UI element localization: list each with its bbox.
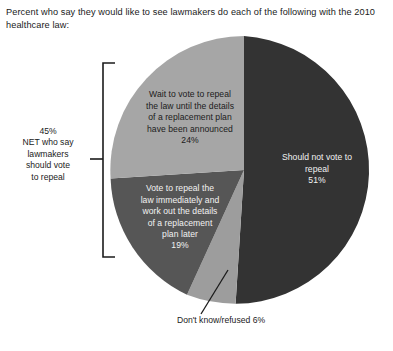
net-bracket (90, 62, 116, 258)
net-annotation-percent: 45% (39, 126, 56, 136)
pie-label-wait-text: Wait to vote to repeal the law until the… (146, 89, 234, 133)
pie-label-shouldnot-percent: 51% (258, 175, 376, 186)
pie-label-shouldnot-text: Should not vote to repeal (282, 152, 352, 173)
pie-label-immediate-text: Vote to repeal the law immediately and w… (141, 183, 220, 239)
pie-label-dontknow-percent: 6% (253, 315, 265, 325)
chart-page: Percent who say they would like to see l… (0, 0, 393, 351)
pie-label-wait-to-vote: Wait to vote to repeal the law until the… (122, 78, 258, 158)
net-annotation-text: NET who say lawmakers should vote to rep… (23, 137, 74, 181)
leader-line-dont-know (195, 268, 235, 318)
pie-label-vote-immediately: Vote to repeal the law immediately and w… (118, 172, 242, 263)
pie-label-should-not-vote: Should not vote to repeal 51% (258, 141, 376, 198)
pie-label-dontknow-text: Don't know/refused (177, 315, 250, 325)
net-annotation-label: 45% NET who say lawmakers should vote to… (4, 126, 92, 183)
pie-label-dont-know-refused: Don't know/refused 6% (153, 315, 289, 326)
chart-title: Percent who say they would like to see l… (6, 6, 376, 32)
pie-label-wait-percent: 24% (122, 135, 258, 146)
pie-label-immediate-percent: 19% (118, 240, 242, 251)
